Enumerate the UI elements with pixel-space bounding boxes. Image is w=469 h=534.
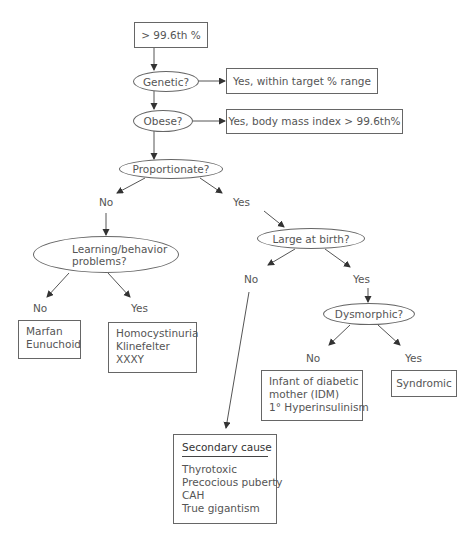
obese-yes-label: Yes, body mass index > 99.6th%	[228, 115, 400, 128]
genetic-yes-node: Yes, within target % range	[226, 68, 378, 94]
marfan-text: Marfan	[26, 325, 73, 338]
learning-yes-node: Homocystinuria Klinefelter XXXY	[108, 322, 197, 373]
obese-decision: Obese?	[133, 110, 193, 132]
eunuchoid-text: Eunuchoid	[26, 338, 73, 351]
learning-decision: Learning/behavior problems?	[33, 236, 179, 273]
large-yes-label: Yes	[353, 273, 370, 285]
idm-line-2: mother (IDM)	[269, 388, 355, 401]
idm-line-1: Infant of diabetic	[269, 375, 355, 388]
dysmorphic-no-label: No	[306, 352, 320, 364]
secondary-cause-node: Secondary cause Thyrotoxic Precocious pu…	[173, 434, 277, 524]
proportionate-no-label: No	[99, 196, 113, 208]
dysmorphic-yes-label: Yes	[405, 352, 422, 364]
large-no-label: No	[244, 273, 258, 285]
start-node-label: > 99.6th %	[141, 29, 201, 42]
thyrotoxic-text: Thyrotoxic	[182, 463, 268, 476]
start-node: > 99.6th %	[134, 22, 208, 48]
obese-decision-label: Obese?	[144, 115, 183, 127]
learning-line-1: Learning/behavior	[72, 243, 167, 255]
syndromic-text: Syndromic	[396, 377, 452, 390]
genetic-decision-label: Genetic?	[143, 76, 189, 88]
learning-no-label: No	[33, 302, 47, 314]
learning-line-2: problems?	[72, 255, 167, 267]
dysmorphic-decision: Dysmorphic?	[323, 303, 415, 325]
dysmorphic-label: Dysmorphic?	[335, 308, 403, 320]
learning-yes-label: Yes	[131, 302, 148, 314]
true-gigantism-text: True gigantism	[182, 502, 268, 515]
proportionate-decision: Proportionate?	[119, 159, 223, 179]
homocystinuria-text: Homocystinuria	[116, 327, 189, 340]
proportionate-decision-label: Proportionate?	[133, 163, 210, 175]
xxxy-text: XXXY	[116, 353, 189, 366]
precocious-puberty-text: Precocious puberty	[182, 476, 268, 489]
cah-text: CAH	[182, 489, 268, 502]
klinefelter-text: Klinefelter	[116, 340, 189, 353]
secondary-cause-title: Secondary cause	[182, 441, 268, 457]
large-at-birth-label: Large at birth?	[272, 233, 349, 245]
large-at-birth-decision: Large at birth?	[257, 228, 365, 249]
learning-no-node: Marfan Eunuchoid	[18, 320, 81, 359]
proportionate-yes-label: Yes	[233, 196, 250, 208]
genetic-decision: Genetic?	[133, 71, 199, 92]
idm-line-3: 1° Hyperinsulinism	[269, 401, 355, 414]
dysmorphic-no-node: Infant of diabetic mother (IDM) 1° Hyper…	[261, 370, 363, 421]
genetic-yes-label: Yes, within target % range	[233, 75, 371, 88]
dysmorphic-yes-node: Syndromic	[391, 370, 457, 397]
obese-yes-node: Yes, body mass index > 99.6th%	[226, 109, 403, 134]
